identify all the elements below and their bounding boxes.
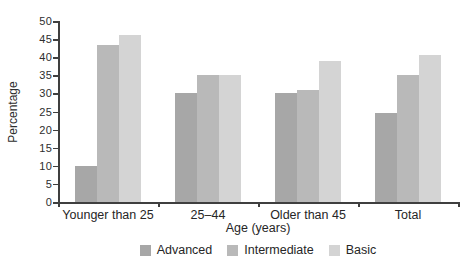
y-tick-mark: [53, 130, 58, 132]
y-tick-mark: [53, 148, 58, 150]
y-tick-label: 30: [26, 87, 52, 99]
bar-intermediate: [397, 75, 419, 202]
x-tick-mark: [158, 202, 160, 207]
bar-basic: [119, 35, 141, 202]
legend-label: Advanced: [157, 243, 213, 257]
bar-advanced: [175, 93, 197, 202]
bar-advanced: [75, 166, 97, 202]
y-tick-label: 25: [26, 106, 52, 118]
bar-basic: [319, 61, 341, 202]
x-axis-title: Age (years): [58, 221, 458, 235]
legend-item-intermediate: Intermediate: [227, 243, 313, 257]
y-tick-mark: [53, 21, 58, 23]
bar-advanced: [375, 113, 397, 202]
y-tick-label: 0: [26, 196, 52, 208]
x-tick-mark: [58, 202, 60, 207]
bar-basic: [219, 75, 241, 202]
y-tick-mark: [53, 57, 58, 59]
y-tick-label: 10: [26, 160, 52, 172]
y-tick-mark: [53, 166, 58, 168]
y-tick-label: 15: [26, 142, 52, 154]
legend-swatch-icon: [227, 245, 238, 256]
x-tick-mark: [358, 202, 360, 207]
y-tick-label: 20: [26, 124, 52, 136]
x-category-label: Total: [395, 208, 421, 222]
y-tick-mark: [53, 93, 58, 95]
bar-basic: [419, 55, 441, 202]
x-tick-mark: [458, 202, 460, 207]
y-tick-mark: [53, 39, 58, 41]
bar-advanced: [275, 93, 297, 202]
y-tick-label: 50: [26, 15, 52, 27]
legend: AdvancedIntermediateBasic: [58, 243, 458, 257]
y-tick-label: 45: [26, 33, 52, 45]
legend-item-basic: Basic: [329, 243, 377, 257]
y-tick-mark: [53, 75, 58, 77]
legend-swatch-icon: [329, 245, 340, 256]
x-category-label: Older than 45: [270, 208, 346, 222]
x-category-label: Younger than 25: [62, 208, 153, 222]
legend-label: Basic: [346, 243, 377, 257]
bar-intermediate: [297, 90, 319, 202]
x-category-label: 25–44: [191, 208, 226, 222]
legend-swatch-icon: [140, 245, 151, 256]
y-tick-mark: [53, 112, 58, 114]
bar-intermediate: [197, 75, 219, 202]
y-tick-label: 35: [26, 69, 52, 81]
bar-intermediate: [97, 45, 119, 202]
y-tick-label: 5: [26, 178, 52, 190]
y-axis-line: [58, 21, 60, 202]
y-tick-label: 40: [26, 51, 52, 63]
legend-item-advanced: Advanced: [140, 243, 213, 257]
y-tick-mark: [53, 184, 58, 186]
x-tick-mark: [258, 202, 260, 207]
bar-chart: Percentage 05101520253035404550Younger t…: [0, 0, 466, 270]
legend-label: Intermediate: [244, 243, 313, 257]
